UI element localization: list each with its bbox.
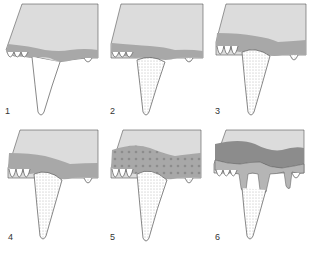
panel-label: 3 <box>215 106 220 116</box>
panel-2: 2 <box>105 0 210 127</box>
panel-5: 5 <box>105 128 210 255</box>
panel-label: 5 <box>110 232 115 242</box>
panel-6: 6 <box>210 128 315 255</box>
panel-label: 4 <box>8 232 13 242</box>
panel-4: 4 <box>0 128 105 255</box>
panel-label: 1 <box>5 106 10 116</box>
panel-label: 6 <box>215 232 220 242</box>
panel-1: 1 <box>0 0 105 127</box>
panel-3: 3 <box>210 0 315 127</box>
panel-label: 2 <box>110 106 115 116</box>
